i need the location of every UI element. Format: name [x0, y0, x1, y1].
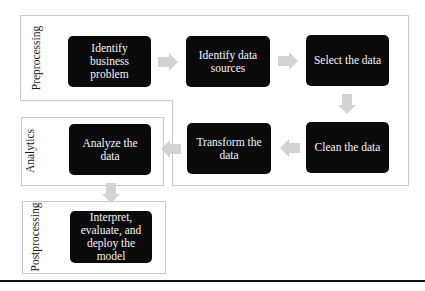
stage-label-analytics: Analytics [24, 121, 36, 181]
step-analyze-the-data: Analyze the data [69, 124, 151, 175]
step-label: Transform the data [193, 136, 265, 162]
step-transform-the-data: Transform the data [187, 123, 271, 174]
arrow-down-icon [102, 183, 120, 203]
step-clean-the-data: Clean the data [306, 122, 389, 173]
arrow-right-icon [158, 53, 178, 71]
stage-label-postprocessing: Postprocessing [29, 192, 41, 282]
stage-label-preprocessing: Preprocessing [30, 18, 42, 98]
step-label: Identify business problem [74, 42, 145, 81]
step-label: Select the data [314, 54, 381, 67]
step-select-the-data: Select the data [306, 35, 389, 86]
step-label: Identify data sources [192, 49, 264, 75]
step-label: Analyze the data [75, 137, 145, 163]
step-identify-business-problem: Identify business problem [68, 36, 151, 87]
bottom-rule [0, 280, 425, 282]
arrow-left-icon [280, 139, 300, 157]
arrow-right-icon [278, 52, 298, 70]
step-identify-data-sources: Identify data sources [186, 36, 270, 87]
step-interpret-evaluate-deploy: Interpret, evaluate, and deploy the mode… [70, 211, 152, 263]
step-label: Clean the data [315, 141, 381, 154]
arrow-left-icon [161, 140, 181, 158]
arrow-down-icon [338, 94, 356, 114]
step-label: Interpret, evaluate, and deploy the mode… [76, 211, 146, 263]
